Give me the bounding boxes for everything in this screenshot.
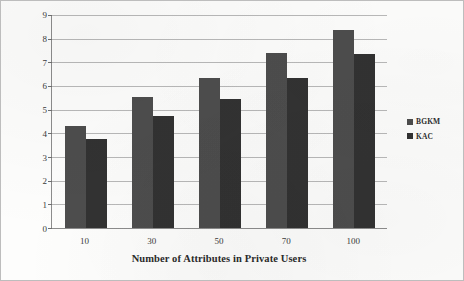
bar-bgkm-30 bbox=[132, 97, 153, 228]
legend-item-bgkm: BGKM bbox=[407, 118, 461, 126]
plot-area bbox=[51, 15, 387, 229]
bar-group bbox=[65, 15, 107, 228]
bar-kac-10 bbox=[86, 139, 107, 228]
bar-group bbox=[266, 15, 308, 228]
bar-group bbox=[132, 15, 174, 228]
y-axis-tick-label: 2 bbox=[27, 177, 47, 186]
y-axis-tick-label: 8 bbox=[27, 34, 47, 43]
y-axis-tick-label: 3 bbox=[27, 153, 47, 162]
y-axis-tick-label: 1 bbox=[27, 201, 47, 210]
legend-item-kac: KAC bbox=[407, 133, 461, 141]
legend: BGKMKAC bbox=[407, 118, 461, 147]
y-axis-tick-label: 9 bbox=[27, 11, 47, 20]
bar-kac-50 bbox=[220, 99, 241, 228]
y-axis-tick-label: 7 bbox=[27, 58, 47, 67]
y-axis-tick-label: 6 bbox=[27, 82, 47, 91]
x-axis-tick-label: 50 bbox=[197, 234, 241, 248]
x-axis-title: Number of Attributes in Private Users bbox=[51, 253, 387, 264]
legend-label: BGKM bbox=[416, 118, 440, 126]
bar-bgkm-70 bbox=[266, 53, 287, 228]
bar-groups bbox=[52, 15, 387, 228]
y-axis-tick-labels: 0123456789 bbox=[27, 15, 47, 229]
x-axis-tick-labels: 10305070100 bbox=[51, 234, 387, 248]
x-axis-tick-label: 10 bbox=[63, 234, 107, 248]
bar-group bbox=[333, 15, 375, 228]
y-axis-tick-label: 5 bbox=[27, 106, 47, 115]
bar-bgkm-50 bbox=[199, 78, 220, 228]
bar-kac-70 bbox=[287, 78, 308, 228]
bar-group bbox=[199, 15, 241, 228]
bar-bgkm-100 bbox=[333, 30, 354, 228]
legend-label: KAC bbox=[416, 133, 433, 141]
y-axis-tick-label: 4 bbox=[27, 129, 47, 138]
legend-swatch-icon bbox=[407, 133, 413, 139]
y-axis-tick-label: 0 bbox=[27, 225, 47, 234]
bar-kac-100 bbox=[354, 54, 375, 228]
x-axis-tick-label: 70 bbox=[264, 234, 308, 248]
bar-bgkm-10 bbox=[65, 126, 86, 228]
y-axis-tickmark bbox=[48, 228, 52, 229]
bar-chart-figure: Time for Setup environment in secs 01234… bbox=[0, 0, 464, 281]
legend-swatch-icon bbox=[407, 119, 413, 125]
x-axis-tick-label: 30 bbox=[130, 234, 174, 248]
bar-kac-30 bbox=[153, 116, 174, 228]
x-axis-tick-label: 100 bbox=[331, 234, 375, 248]
